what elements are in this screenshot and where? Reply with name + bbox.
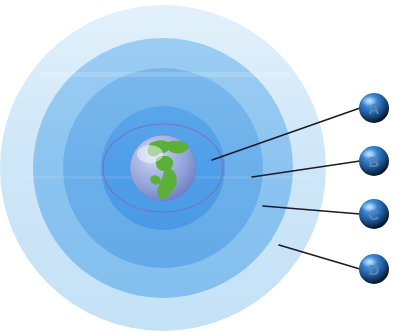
badge-d[interactable]: D [359,254,389,284]
concentric-zone-diagram: A B C D [0,0,398,332]
badge-b-label: B [369,153,380,170]
badge-a[interactable]: A [359,93,389,123]
badge-a-label: A [369,100,380,117]
badge-b[interactable]: B [359,146,389,176]
earth-globe[interactable] [130,135,196,201]
badge-d-label: D [369,261,380,278]
badge-c-label: C [369,206,380,223]
badge-c[interactable]: C [359,199,389,229]
diagram-canvas: A B C D [0,0,398,332]
globe-specular-highlight [137,145,163,163]
